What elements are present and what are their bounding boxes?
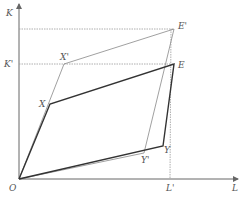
point-label-y-prime: Y' (141, 155, 149, 165)
axis-label-k-prime: K' (3, 59, 13, 69)
axis-label-l: L (231, 183, 238, 193)
point-label-x: X (38, 99, 46, 109)
point-label-e-prime: E' (177, 21, 187, 31)
origin-label: O (9, 183, 17, 193)
l-prime-guide-line (170, 29, 171, 179)
original-box-outline (19, 64, 174, 179)
axis-label-k: K (5, 8, 14, 18)
axis-label-l-prime: L' (165, 183, 174, 193)
point-label-x-prime: X' (59, 52, 69, 62)
point-label-e: E (177, 60, 185, 70)
point-label-y: Y (164, 145, 171, 155)
diagram-canvas: K K' O L L' X' X E' E Y Y' (0, 0, 242, 200)
